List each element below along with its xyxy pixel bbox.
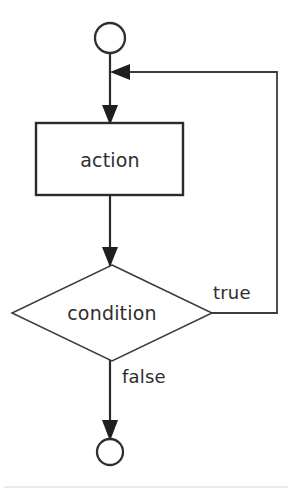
condition-decision-label: condition xyxy=(67,302,157,324)
edge-start-to-action xyxy=(102,53,118,125)
end-terminator-circle xyxy=(97,439,123,465)
edge-action-to-condition xyxy=(102,195,118,267)
flowchart-diagram: action condition true false xyxy=(0,0,292,494)
edge-condition-false-exit xyxy=(102,360,118,441)
node-action-process[interactable]: action xyxy=(36,123,183,195)
edge-condition-true-loop-arrowhead xyxy=(110,64,130,80)
start-terminator-circle xyxy=(95,23,125,53)
action-process-label: action xyxy=(80,149,140,171)
edge-action-to-condition-arrowhead xyxy=(102,247,118,267)
edge-label-false: false xyxy=(122,366,166,387)
node-start-terminator[interactable] xyxy=(95,23,125,53)
flowchart-canvas: action condition true false xyxy=(0,0,292,494)
edge-label-true: true xyxy=(213,282,251,303)
node-end-terminator[interactable] xyxy=(97,439,123,465)
node-condition-decision[interactable]: condition xyxy=(12,265,212,361)
